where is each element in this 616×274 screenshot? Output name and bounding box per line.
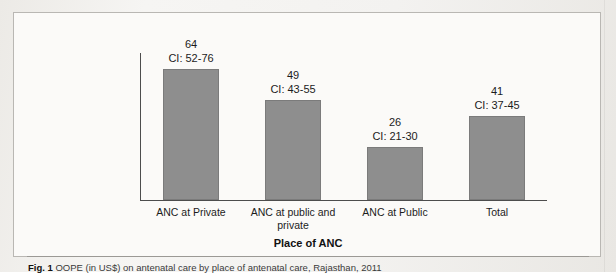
bar-label-group-2: 49 CI: 43-55 — [243, 68, 343, 96]
bar[interactable] — [367, 147, 423, 200]
bar-ci-label: CI: 43-55 — [243, 82, 343, 96]
bar[interactable] — [469, 116, 525, 200]
bar-value-label: 49 — [243, 68, 343, 82]
bar-wrapper-1 — [163, 69, 219, 200]
x-axis-title: Place of ANC — [14, 237, 602, 249]
x-tick-label-3: ANC at Public — [339, 206, 451, 219]
bar[interactable] — [265, 100, 321, 200]
x-tick-label-1: ANC at Private — [135, 206, 247, 219]
page-edge-shadow — [604, 0, 605, 272]
bar-value-label: 26 — [345, 115, 445, 129]
x-axis-line — [140, 200, 547, 201]
bar-value-label: 64 — [141, 37, 241, 51]
bar[interactable] — [163, 69, 219, 200]
x-tick-label-2: ANC at public and private — [237, 206, 349, 232]
bar-label-group-1: 64 CI: 52-76 — [141, 37, 241, 65]
figure-number: Fig. 1 — [28, 262, 53, 273]
figure-caption: Fig. 1 OOPE (in US$) on antenatal care b… — [28, 262, 588, 274]
bar-label-group-4: 41 CI: 37-45 — [447, 84, 547, 112]
bar-ci-label: CI: 37-45 — [447, 98, 547, 112]
figure-caption-text: OOPE (in US$) on antenatal care by place… — [55, 262, 381, 273]
bar-label-group-3: 26 CI: 21-30 — [345, 115, 445, 143]
bar-ci-label: CI: 21-30 — [345, 129, 445, 143]
bar-wrapper-2 — [265, 100, 321, 200]
bar-wrapper-3 — [367, 147, 423, 200]
x-tick-label-4: Total — [441, 206, 553, 219]
bar-column-1: 64 CI: 52-76 — [141, 52, 241, 200]
caption-divider — [27, 256, 589, 257]
bar-column-3: 26 CI: 21-30 — [345, 52, 445, 200]
bar-wrapper-4 — [469, 116, 525, 200]
figure-panel: 64 CI: 52-76 49 CI: 43-55 — [13, 12, 601, 257]
bar-column-4: 41 CI: 37-45 — [447, 52, 547, 200]
bar-ci-label: CI: 52-76 — [141, 51, 241, 65]
chart-plot-area: 64 CI: 52-76 49 CI: 43-55 — [14, 13, 602, 213]
bar-column-2: 49 CI: 43-55 — [243, 52, 343, 200]
bar-value-label: 41 — [447, 84, 547, 98]
